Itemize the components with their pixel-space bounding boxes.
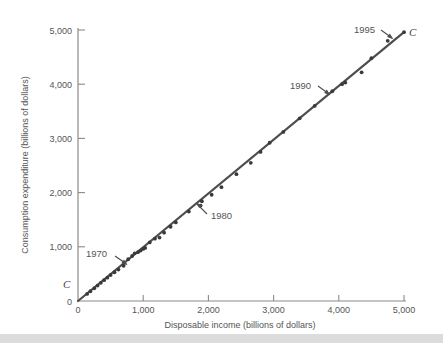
annotation-1990-label: 1990 — [290, 80, 311, 91]
data-point — [259, 150, 263, 154]
data-point — [117, 268, 121, 272]
data-point — [402, 30, 406, 34]
data-point — [88, 289, 92, 293]
data-point — [99, 281, 103, 285]
y-tick-label-0: 0 — [67, 297, 72, 307]
data-point — [360, 70, 364, 74]
data-point — [249, 161, 253, 165]
annotation-1980-label: 1980 — [211, 210, 232, 221]
y-tick-label-2000: 2,000 — [49, 188, 72, 198]
data-point — [187, 210, 191, 214]
data-point — [235, 172, 239, 176]
data-point — [386, 39, 390, 43]
consumption-function-chart: 5,000 4,000 3,000 2,000 1,000 0 0 1,000 … — [0, 0, 443, 348]
data-point — [153, 237, 157, 241]
data-point — [298, 116, 302, 120]
data-point — [105, 276, 109, 280]
curve-label-end: C — [409, 26, 417, 38]
curve-label-origin: C — [63, 278, 71, 290]
data-point — [126, 257, 130, 261]
data-point — [220, 185, 224, 189]
data-point — [330, 89, 334, 93]
data-point — [169, 225, 173, 229]
data-point — [143, 246, 147, 250]
data-point — [109, 273, 113, 277]
x-tick-label-4000: 4,000 — [328, 305, 351, 315]
x-axis-title: Disposable income (billions of dollars) — [164, 320, 315, 330]
data-point — [158, 236, 162, 240]
y-axis-title: Consumption expenditure (billions of dol… — [20, 76, 30, 254]
data-point — [343, 81, 347, 85]
data-point — [281, 130, 285, 134]
x-tick-label-5000: 5,000 — [393, 305, 416, 315]
chart-figure: 5,000 4,000 3,000 2,000 1,000 0 0 1,000 … — [0, 0, 443, 348]
x-tick-label-3000: 3,000 — [262, 305, 285, 315]
data-point — [370, 56, 374, 60]
data-point — [162, 231, 166, 235]
data-point — [340, 82, 344, 86]
data-point — [113, 270, 117, 274]
x-tick-label-0: 0 — [75, 305, 80, 315]
y-tick-label-5000: 5,000 — [49, 26, 72, 36]
bottom-gray-band — [0, 334, 443, 343]
annotation-1970-label: 1970 — [86, 248, 107, 259]
data-point — [122, 264, 126, 268]
data-point — [313, 104, 317, 108]
data-point — [133, 251, 137, 255]
data-point — [148, 241, 152, 245]
y-tick-label-4000: 4,000 — [49, 80, 72, 90]
data-point — [200, 199, 204, 203]
x-tick-label-2000: 2,000 — [197, 305, 220, 315]
x-tick-label-1000: 1,000 — [132, 305, 155, 315]
y-tick-label-1000: 1,000 — [49, 242, 72, 252]
data-point — [92, 286, 96, 290]
data-point — [96, 284, 100, 288]
data-point — [102, 278, 106, 282]
data-point — [268, 141, 272, 145]
y-tick-label-3000: 3,000 — [49, 134, 72, 144]
data-point — [174, 221, 178, 225]
annotation-1995-label: 1995 — [354, 24, 375, 35]
data-point — [210, 193, 214, 197]
data-point — [85, 292, 89, 296]
